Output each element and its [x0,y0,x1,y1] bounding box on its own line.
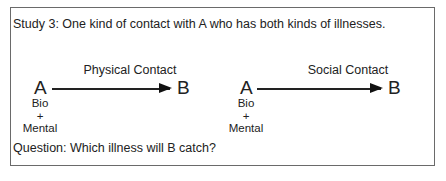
left-attr-mental: Mental [20,122,60,135]
left-node-a: A [34,78,47,97]
study-title: Study 3: One kind of contact with A who … [13,17,385,31]
right-attr-bio: Bio [226,97,266,110]
right-node-a: A [240,78,253,97]
right-attr-mental: Mental [226,122,266,135]
right-arrow-icon [257,88,381,90]
left-node-b: B [177,78,190,97]
left-arrow-icon [52,88,170,90]
social-contact-label: Social Contact [298,63,398,77]
left-attr-bio: Bio [20,97,60,110]
physical-contact-label: Physical Contact [70,63,190,77]
right-node-b: B [388,78,401,97]
question-text: Question: Which illness will B catch? [13,141,216,155]
